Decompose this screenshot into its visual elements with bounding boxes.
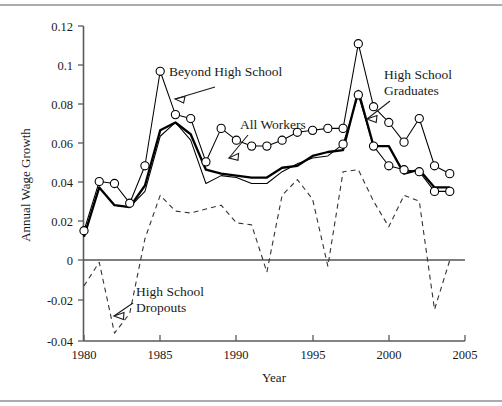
data-point-marker xyxy=(263,142,271,150)
annot-all-workers-label: All Workers xyxy=(240,117,306,132)
annot-high-school-dropouts: High School Dropouts xyxy=(114,284,204,320)
y-tick-label-0: 0.12 xyxy=(51,20,73,34)
y-tick-label-2: 0.08 xyxy=(51,98,73,112)
series-markers-high-school-graduates xyxy=(339,91,454,196)
annot-high-school-graduates-label-1: High School xyxy=(384,67,452,82)
figure-container: 0.12 0.1 0.08 0.06 0.04 0.02 0 -0.02 -0.… xyxy=(0,0,502,406)
data-point-marker xyxy=(156,67,164,75)
y-tick-label-7: -0.02 xyxy=(47,294,73,308)
data-point-marker xyxy=(248,142,256,150)
annot-high-school-dropouts-arrowhead xyxy=(114,313,124,320)
x-tick-label-0: 1980 xyxy=(72,348,97,362)
data-point-marker xyxy=(400,138,408,146)
data-point-marker xyxy=(217,124,225,132)
wage-growth-line-chart: 0.12 0.1 0.08 0.06 0.04 0.02 0 -0.02 -0.… xyxy=(0,0,502,406)
data-point-marker xyxy=(354,40,362,48)
data-point-marker xyxy=(430,187,438,195)
data-point-marker xyxy=(369,142,377,150)
x-tick-label-2: 1990 xyxy=(224,348,249,362)
y-tick-label-5: 0.02 xyxy=(51,215,73,229)
annot-high-school-dropouts-label-2: Dropouts xyxy=(136,300,186,315)
series-line-all-workers xyxy=(84,91,450,237)
data-point-marker xyxy=(446,170,454,178)
x-tick-label-5: 2005 xyxy=(453,348,478,362)
x-tick-label-4: 2000 xyxy=(377,348,402,362)
data-point-marker xyxy=(95,177,103,185)
data-point-marker xyxy=(400,166,408,174)
data-point-marker xyxy=(369,103,377,111)
data-point-marker xyxy=(309,126,317,134)
y-tick-label-4: 0.04 xyxy=(51,176,74,190)
data-point-marker xyxy=(415,168,423,176)
y-tick-marks xyxy=(78,26,84,341)
y-tick-label-3: 0.06 xyxy=(51,137,73,151)
x-tick-label-3: 1995 xyxy=(301,348,326,362)
annot-high-school-graduates: High School Graduates xyxy=(367,67,452,122)
data-point-marker xyxy=(278,136,286,144)
x-axis xyxy=(84,335,466,341)
data-point-marker xyxy=(339,124,347,132)
data-point-marker xyxy=(110,179,118,187)
data-point-marker xyxy=(126,199,134,207)
y-tick-label-1: 0.1 xyxy=(57,59,73,73)
data-point-marker xyxy=(339,140,347,148)
annot-high-school-dropouts-label-1: High School xyxy=(136,284,204,299)
annot-beyond-high-school-arrowhead xyxy=(175,96,185,103)
data-point-marker xyxy=(232,136,240,144)
data-point-marker xyxy=(385,118,393,126)
x-tick-label-1: 1985 xyxy=(148,348,173,362)
x-tick-marks xyxy=(84,335,465,341)
data-point-marker xyxy=(80,227,88,235)
data-point-marker xyxy=(430,162,438,170)
data-point-marker xyxy=(385,162,393,170)
y-axis xyxy=(78,26,84,341)
y-axis-title: Annual Wage Growth xyxy=(18,128,33,242)
x-axis-title: Year xyxy=(262,370,287,385)
data-point-marker xyxy=(141,162,149,170)
y-tick-label-6: 0 xyxy=(67,254,73,268)
data-point-marker xyxy=(187,114,195,122)
data-point-marker xyxy=(171,110,179,118)
data-point-marker xyxy=(354,91,362,99)
annot-high-school-graduates-arrowhead xyxy=(367,116,377,123)
annot-beyond-high-school: Beyond High School xyxy=(169,64,282,103)
data-point-marker xyxy=(446,187,454,195)
data-point-marker xyxy=(324,124,332,132)
annot-all-workers-arrowhead xyxy=(229,153,239,160)
y-tick-label-8: -0.04 xyxy=(47,335,74,349)
data-point-marker xyxy=(202,158,210,166)
data-point-marker xyxy=(415,114,423,122)
annot-beyond-high-school-label: Beyond High School xyxy=(169,64,282,79)
annot-high-school-graduates-label-2: Graduates xyxy=(384,83,439,98)
